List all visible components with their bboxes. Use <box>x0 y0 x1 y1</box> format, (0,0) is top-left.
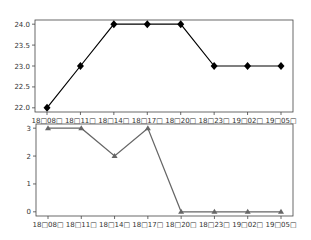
bottom-chart-axes: 012318□08□18□11□18□14□18□17□18□20□18□23□… <box>27 124 297 229</box>
x-tick-label: 18□08□ <box>32 221 63 229</box>
x-tick-label: 18□23□ <box>199 221 230 229</box>
y-tick-label: 23.5 <box>14 42 30 50</box>
y-tick-label: 23.0 <box>14 63 30 71</box>
y-tick-label: 24.0 <box>14 21 30 29</box>
x-tick-label: 18□14□ <box>99 221 130 229</box>
figure: 22.022.523.023.524.018□08□18□11□18□14□18… <box>0 0 311 240</box>
diamond-marker <box>144 20 151 28</box>
triangle-marker <box>145 125 151 130</box>
series-line <box>48 128 281 212</box>
x-tick-label: 19□02□ <box>232 221 263 229</box>
x-tick-label: 19□05□ <box>265 221 296 229</box>
y-tick-label: 1 <box>27 180 31 188</box>
top-chart-axes: 22.022.523.023.524.018□08□18□11□18□14□18… <box>14 20 296 125</box>
x-tick-label: 18□11□ <box>66 221 97 229</box>
y-tick-label: 22.5 <box>14 83 30 91</box>
x-tick-label: 18□17□ <box>132 221 163 229</box>
y-tick-label: 3 <box>27 125 31 133</box>
y-tick-label: 22.0 <box>14 104 30 112</box>
diamond-marker <box>278 62 285 70</box>
x-tick-label: 18□20□ <box>166 221 197 229</box>
diamond-marker <box>244 62 251 70</box>
y-tick-label: 2 <box>27 153 31 161</box>
y-tick-label: 0 <box>27 208 31 216</box>
